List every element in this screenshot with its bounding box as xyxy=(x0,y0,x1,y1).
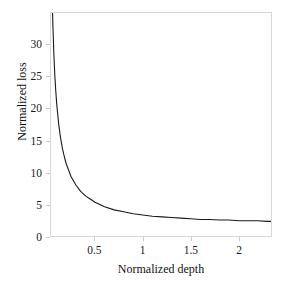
y-tick-mark xyxy=(46,76,50,77)
y-axis-title: Normalized loss xyxy=(15,52,30,152)
y-tick-mark xyxy=(46,141,50,142)
y-tick-mark xyxy=(46,108,50,109)
x-tick-mark xyxy=(191,237,192,241)
x-tick-mark xyxy=(143,237,144,241)
y-tick-label: 0 xyxy=(14,231,42,243)
x-tick-label: 0.5 xyxy=(74,244,114,256)
x-tick-mark xyxy=(94,237,95,241)
loss-curve xyxy=(52,13,271,221)
y-tick-mark xyxy=(46,205,50,206)
plot-area xyxy=(50,12,272,237)
chart-figure: 051015202530 0.511.52 Normalized loss No… xyxy=(0,0,287,293)
x-tick-label: 2 xyxy=(219,244,259,256)
y-tick-mark xyxy=(46,173,50,174)
x-axis-title: Normalized depth xyxy=(50,262,272,277)
y-tick-label: 5 xyxy=(14,199,42,211)
x-tick-label: 1.5 xyxy=(171,244,211,256)
x-tick-label: 1 xyxy=(123,244,163,256)
y-tick-label: 30 xyxy=(14,38,42,50)
curve-svg xyxy=(51,13,271,236)
x-tick-mark xyxy=(239,237,240,241)
y-tick-label: 10 xyxy=(14,167,42,179)
y-tick-mark xyxy=(46,237,50,238)
y-tick-mark xyxy=(46,44,50,45)
